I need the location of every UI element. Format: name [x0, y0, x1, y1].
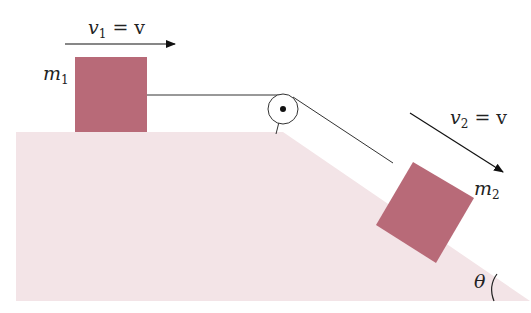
physics-diagram: v1 = v v2 = v m1 m2 θ	[0, 0, 531, 313]
pulley-axle	[280, 106, 286, 112]
label-m2: m2	[474, 177, 500, 202]
label-v1: v1 = v	[88, 16, 145, 41]
label-m1: m1	[43, 62, 69, 87]
label-theta: θ	[474, 270, 486, 292]
block-m1	[75, 57, 147, 132]
label-v2: v2 = v	[450, 106, 507, 131]
